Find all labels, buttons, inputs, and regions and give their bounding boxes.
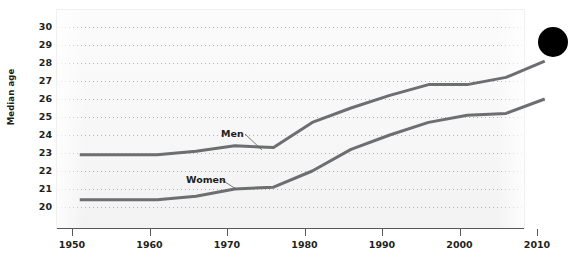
page-bullet-dot xyxy=(538,27,568,57)
series-label-women: Women xyxy=(186,174,226,185)
series-path-group xyxy=(80,61,545,200)
series-line-women xyxy=(80,99,545,200)
series-line-men xyxy=(80,61,545,155)
series-label-men: Men xyxy=(221,128,244,139)
